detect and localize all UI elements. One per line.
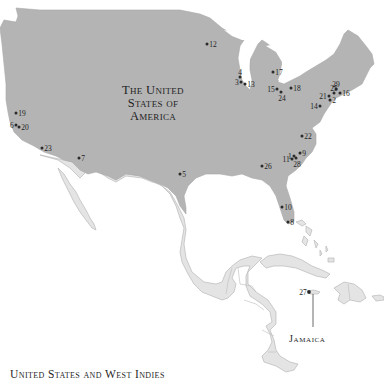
marker-dot-icon <box>319 105 322 108</box>
marker-label: 14 <box>310 102 318 111</box>
marker-label: 20 <box>21 123 29 132</box>
marker-label: 26 <box>264 162 272 171</box>
marker-label: 22 <box>304 132 312 141</box>
marker-dot-icon <box>299 152 302 155</box>
marker-label: 2 <box>332 96 336 105</box>
marker-dot-icon <box>206 43 209 46</box>
marker-dot-icon <box>328 95 331 98</box>
marker-dot-icon <box>281 206 284 209</box>
marker-label: 10 <box>284 203 292 212</box>
marker-dot-icon <box>18 126 21 129</box>
marker-label: 28 <box>293 160 301 169</box>
marker-label: 5 <box>182 170 186 179</box>
marker-label: 8 <box>290 218 294 227</box>
marker-dot-icon <box>261 165 264 168</box>
marker-label: 16 <box>342 89 350 98</box>
marker-label: 29 <box>332 80 340 89</box>
map-canvas: 1234567891011121314151617181920212223242… <box>0 0 384 387</box>
marker-label: 18 <box>293 84 301 93</box>
marker-dot-icon <box>179 173 182 176</box>
marker-dot-icon <box>15 124 18 127</box>
marker-label: 17 <box>275 68 283 77</box>
marker-dot-icon <box>329 99 332 102</box>
marker-dot-icon <box>339 92 342 95</box>
marker-dot-icon <box>41 147 44 150</box>
map-caption: United States and West Indies <box>10 368 165 380</box>
marker-label: 9 <box>302 149 306 158</box>
marker-label: 15 <box>267 85 275 94</box>
marker-dot-icon <box>290 87 293 90</box>
marker-label: 11 <box>283 155 290 164</box>
caribbean-islands <box>260 220 384 304</box>
marker-label: 21 <box>319 92 327 101</box>
marker-dot-icon <box>307 290 311 294</box>
marker-label: 19 <box>18 109 26 118</box>
marker-label: 13 <box>247 80 255 89</box>
marker-dot-icon <box>240 81 243 84</box>
marker-dot-icon <box>287 221 290 224</box>
marker-label: 6 <box>10 121 14 130</box>
marker-label: 7 <box>81 154 85 163</box>
marker-label: 12 <box>209 40 217 49</box>
marker-label: 24 <box>278 94 286 103</box>
marker-dot-icon <box>301 135 304 138</box>
marker-dot-icon <box>276 88 279 91</box>
marker-label: 3 <box>235 78 239 87</box>
marker-label: 4 <box>238 68 242 77</box>
marker-dot-icon <box>272 71 275 74</box>
usa-label-line3: America <box>98 110 208 123</box>
marker-label: 27 <box>299 288 307 297</box>
usa-label: The United States of America <box>98 84 208 123</box>
marker-dot-icon <box>78 157 81 160</box>
location-marker-27: 27 <box>299 288 311 297</box>
marker-label: 23 <box>44 144 52 153</box>
jamaica-label: Jamaica <box>289 333 325 344</box>
marker-dot-icon <box>244 83 247 86</box>
marker-dot-icon <box>15 112 18 115</box>
